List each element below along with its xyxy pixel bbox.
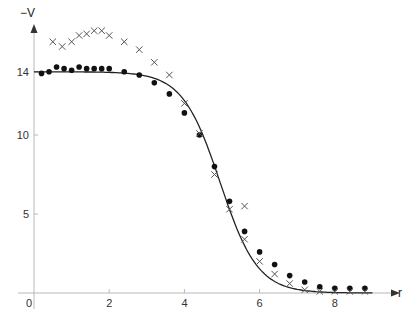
- data-point-dot: [46, 69, 52, 75]
- y-axis-title: −V: [20, 6, 35, 20]
- data-point-dot: [182, 110, 188, 116]
- data-point-dot: [152, 80, 158, 86]
- data-point-cross: [211, 171, 217, 177]
- data-point-cross: [59, 43, 65, 49]
- x-tick-label: 8: [332, 297, 338, 309]
- data-point-cross: [68, 39, 74, 45]
- data-point-cross: [256, 258, 262, 264]
- data-point-dot: [167, 91, 173, 97]
- fit-curve: [34, 72, 372, 293]
- data-point-cross: [106, 32, 112, 38]
- data-point-dot: [317, 284, 323, 290]
- data-point-dot: [61, 66, 67, 72]
- data-point-cross: [151, 59, 157, 65]
- data-point-cross: [83, 31, 89, 37]
- chart: 0246851014 r −V: [0, 0, 420, 323]
- data-point-dot: [347, 285, 353, 291]
- data-point-cross: [271, 271, 277, 277]
- data-point-dot: [362, 285, 368, 291]
- data-point-cross: [76, 32, 82, 38]
- y-axis-arrow-icon: [31, 24, 38, 33]
- data-point-dot: [39, 71, 45, 77]
- data-point-cross: [121, 39, 127, 45]
- data-point-cross: [166, 72, 172, 78]
- data-point-dot: [76, 64, 82, 70]
- x-axis-title: r: [398, 286, 402, 300]
- cross-series: [50, 28, 368, 295]
- x-tick-label: 6: [257, 297, 263, 309]
- x-tick-label: 0: [26, 297, 32, 309]
- data-point-dot: [106, 66, 112, 72]
- data-point-dot: [287, 273, 293, 279]
- data-point-dot: [227, 199, 233, 205]
- data-point-dot: [257, 249, 263, 255]
- data-point-cross: [241, 203, 247, 209]
- data-point-dot: [99, 66, 105, 72]
- data-point-cross: [136, 46, 142, 52]
- data-point-dot: [69, 67, 75, 73]
- data-point-cross: [241, 236, 247, 242]
- data-point-dot: [136, 72, 142, 78]
- data-point-dot: [332, 285, 338, 291]
- x-tick-label: 2: [106, 297, 112, 309]
- data-point-dot: [84, 66, 90, 72]
- fit-curve-path: [34, 72, 372, 293]
- data-point-dot: [212, 164, 218, 170]
- data-point-cross: [98, 28, 104, 34]
- data-point-dot: [272, 262, 278, 268]
- data-point-dot: [121, 69, 127, 75]
- dot-series: [39, 64, 368, 291]
- y-tick-label: 5: [23, 208, 29, 220]
- data-point-cross: [91, 28, 97, 34]
- x-tick-label: 4: [181, 297, 187, 309]
- axes: 0246851014: [17, 24, 400, 309]
- y-tick-label: 10: [17, 129, 29, 141]
- data-point-cross: [226, 206, 232, 212]
- data-point-dot: [242, 229, 248, 235]
- data-point-cross: [286, 280, 292, 286]
- data-point-dot: [91, 66, 97, 72]
- data-point-dot: [302, 279, 308, 285]
- data-point-dot: [54, 64, 60, 70]
- y-tick-label: 14: [17, 66, 29, 78]
- data-point-cross: [50, 39, 56, 45]
